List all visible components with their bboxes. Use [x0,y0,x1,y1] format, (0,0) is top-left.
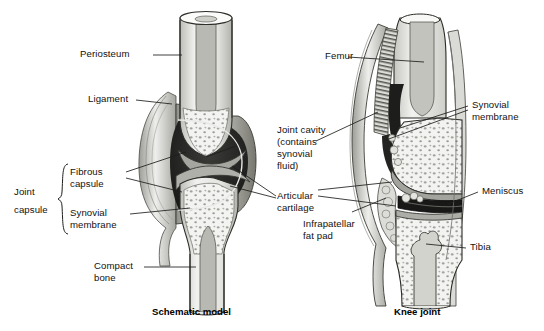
schematic-model-figure [139,12,256,316]
label-articular-cartilage-line1: Articular [277,190,313,201]
label-joint-cavity-line4: fluid) [277,160,298,171]
label-fibrous-capsule-line2: capsule [70,178,104,189]
label-meniscus: Meniscus [482,185,523,196]
label-articular-cartilage-line2: cartilage [277,202,314,213]
ligament-sheath [139,92,176,266]
joint-capsule-brace [56,162,70,236]
label-synovial-membrane-right-line2: membrane [472,111,519,122]
label-periosteum: Periosteum [80,48,129,59]
label-joint-cavity-line1: Joint cavity [277,124,326,135]
label-synovial-membrane-left-line2: membrane [70,219,117,230]
label-femur: Femur [325,50,353,61]
label-synovial-membrane-left-line1: Synovial [70,207,107,218]
caption-schematic-model: Schematic model [152,306,231,317]
label-joint-cavity-line2: (contains [277,136,317,147]
label-joint-cavity-line3: synovial [277,148,312,159]
label-compact-bone-line1: Compact [94,260,133,271]
label-synovial-membrane-right-line1: Synovial [472,99,509,110]
caption-knee-joint: Knee joint [394,306,440,317]
figure-canvas: Periosteum Ligament Fibrous capsule Syno… [0,0,544,331]
label-tibia: Tibia [470,241,491,252]
label-infrapatellar-fat-pad-line1: Infrapatellar [303,218,355,229]
label-joint-capsule-line1: Joint [14,186,35,197]
label-compact-bone-line2: bone [94,272,116,283]
label-fibrous-capsule-line1: Fibrous [70,166,103,177]
femur-marrow [410,22,434,116]
lower-medullary-canal [200,226,216,312]
label-joint-capsule-line2: capsule [14,204,48,215]
label-infrapatellar-fat-pad-line2: fat pad [303,230,333,241]
label-ligament: Ligament [88,93,128,104]
